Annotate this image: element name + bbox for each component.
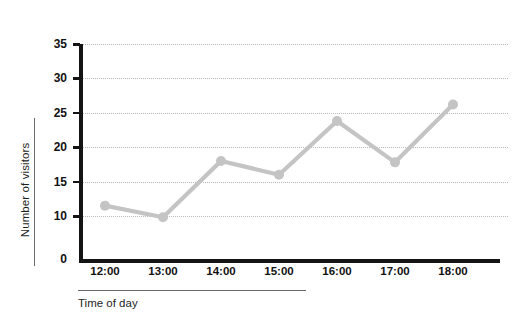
y-axis-line [79, 44, 83, 262]
plot-area [83, 44, 508, 259]
x-tick-label-1300: 13:00 [133, 265, 193, 277]
y-axis-title-group: Number of visitors [14, 118, 36, 266]
y-axis-title-rule [34, 118, 35, 266]
data-point-1600 [332, 116, 342, 126]
y-tick-label-25: 25 [41, 107, 67, 119]
x-axis-title: Time of day [78, 297, 138, 309]
data-point-1500 [274, 170, 284, 180]
x-axis-line [79, 259, 500, 263]
data-point-1800 [448, 100, 458, 110]
series-line-visitors [105, 105, 453, 218]
data-point-1400 [216, 156, 226, 166]
series-layer [83, 44, 508, 259]
y-tick-label-0: 0 [41, 253, 67, 265]
x-tick-label-1500: 15:00 [249, 265, 309, 277]
data-point-1300 [158, 212, 168, 222]
x-tick-label-1200: 12:00 [75, 265, 135, 277]
y-axis-title: Number of visitors [19, 116, 31, 264]
x-tick-label-1400: 14:00 [191, 265, 251, 277]
y-tick-label-20: 20 [41, 141, 67, 153]
series-markers [100, 100, 458, 223]
data-point-1200 [100, 201, 110, 211]
x-tick-label-1800: 18:00 [423, 265, 483, 277]
x-tick-label-1700: 17:00 [365, 265, 425, 277]
y-tick-label-35: 35 [41, 38, 67, 50]
y-tick-label-15: 15 [41, 176, 67, 188]
y-tick-label-30: 30 [41, 72, 67, 84]
x-tick-label-1600: 16:00 [307, 265, 367, 277]
x-axis-title-rule [78, 290, 306, 291]
data-point-1700 [390, 157, 400, 167]
y-tick-label-10: 10 [41, 210, 67, 222]
visitors-line-chart: Number of visitors 0101520253035 12:0013… [0, 0, 530, 321]
